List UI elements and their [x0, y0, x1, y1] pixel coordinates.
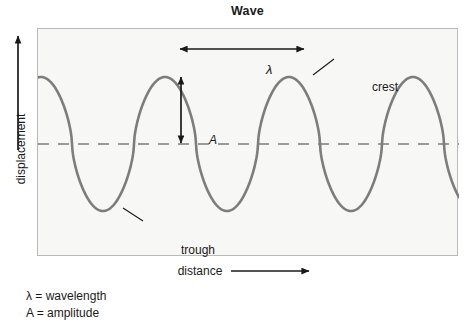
trough-callout-label: trough — [181, 243, 215, 257]
x-axis-label: distance — [178, 264, 223, 278]
wavelength-symbol-label: λ — [266, 62, 272, 77]
y-axis-label: displacement — [14, 84, 28, 214]
crest-leader-line — [313, 59, 334, 75]
wave-plot-svg — [38, 29, 459, 257]
trough-leader-line — [123, 208, 143, 221]
legend-item-amplitude: A = amplitude — [26, 305, 106, 322]
wave-diagram-figure: Wave — [0, 0, 474, 330]
figure-title: Wave — [37, 4, 458, 18]
crest-callout-label: crest — [372, 80, 398, 94]
arrow-right-icon — [231, 265, 317, 277]
legend: λ = wavelength A = amplitude — [26, 288, 106, 322]
plot-area: λ A crest trough — [37, 28, 458, 256]
x-axis: distance — [37, 258, 458, 284]
legend-item-wavelength: λ = wavelength — [26, 288, 106, 305]
amplitude-symbol-label: A — [209, 133, 217, 147]
y-axis: displacement — [0, 30, 36, 256]
